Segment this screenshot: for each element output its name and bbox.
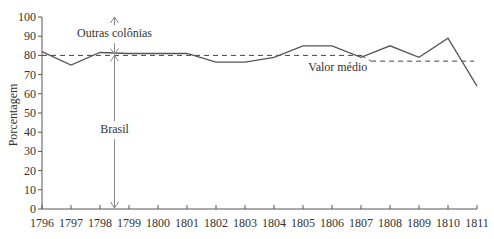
annotation-label: Brasil	[100, 122, 129, 136]
y-tick-label: 100	[18, 10, 36, 24]
y-tick-label: 70	[24, 68, 36, 82]
y-axis-title: Porcentagem	[6, 83, 20, 146]
y-ticks: 0102030405060708090100	[18, 10, 42, 216]
x-tick-label: 1806	[320, 216, 344, 230]
annotation-label: Outras colônias	[77, 26, 152, 40]
y-tick-label: 50	[24, 106, 36, 120]
x-tick-label: 1810	[436, 216, 460, 230]
y-tick-label: 10	[24, 183, 36, 197]
x-tick-label: 1800	[146, 216, 170, 230]
y-tick-label: 80	[24, 48, 36, 62]
x-tick-label: 1798	[88, 216, 112, 230]
y-tick-label: 60	[24, 87, 36, 101]
line-chart: 0102030405060708090100 17961797179817991…	[0, 0, 494, 239]
x-tick-label: 1807	[349, 216, 373, 230]
x-tick-label: 1802	[204, 216, 228, 230]
y-tick-label: 20	[24, 164, 36, 178]
axes	[42, 17, 477, 209]
x-tick-label: 1799	[117, 216, 141, 230]
x-tick-label: 1808	[378, 216, 402, 230]
x-tick-label: 1803	[233, 216, 257, 230]
x-tick-label: 1797	[59, 216, 83, 230]
x-tick-label: 1809	[407, 216, 431, 230]
y-tick-label: 0	[30, 202, 36, 216]
x-tick-label: 1796	[30, 216, 54, 230]
annotation-label: Valor médio	[308, 60, 367, 74]
series	[42, 38, 477, 86]
x-tick-label: 1805	[291, 216, 315, 230]
x-tick-label: 1804	[262, 216, 286, 230]
y-tick-label: 40	[24, 125, 36, 139]
y-tick-label: 90	[24, 29, 36, 43]
y-tick-label: 30	[24, 144, 36, 158]
x-tick-label: 1811	[465, 216, 489, 230]
x-tick-label: 1801	[175, 216, 199, 230]
series-line-brasil	[42, 38, 477, 86]
